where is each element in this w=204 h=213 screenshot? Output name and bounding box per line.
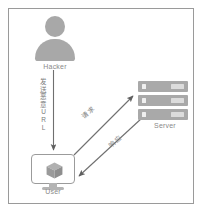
server-unit xyxy=(138,109,188,120)
vlabel-char-4: U xyxy=(38,108,49,116)
vlabel-char-0: 发 xyxy=(38,78,49,86)
server-led-icon xyxy=(142,98,146,102)
server-led-icon xyxy=(142,112,146,116)
avatar-body-icon xyxy=(35,39,75,61)
vlabel-char-1: 送 xyxy=(38,86,49,94)
server-led-icon xyxy=(142,84,146,88)
server-bar-icon xyxy=(171,98,184,102)
diagram-canvas: Hacker 发 送 恶 意 U R L 请求 响应 User xyxy=(0,0,204,213)
hacker-label: Hacker xyxy=(28,63,82,70)
server-label: Server xyxy=(136,122,194,129)
vlabel-char-3: 意 xyxy=(38,101,49,109)
server-unit xyxy=(138,81,188,92)
hacker-avatar-icon xyxy=(32,16,78,62)
vlabel-char-6: L xyxy=(38,124,49,132)
user-label: User xyxy=(26,188,80,195)
user-monitor-icon xyxy=(31,154,75,192)
edge-label-send-malicious-url: 发 送 恶 意 U R L xyxy=(38,78,49,131)
server-bar-icon xyxy=(171,84,184,88)
cube-icon xyxy=(45,161,64,180)
vlabel-char-2: 恶 xyxy=(38,93,49,101)
server-stack-icon xyxy=(138,81,188,120)
server-unit xyxy=(138,95,188,106)
avatar-head-icon xyxy=(45,16,65,37)
monitor-screen xyxy=(31,154,75,184)
vlabel-char-5: R xyxy=(38,116,49,124)
server-bar-icon xyxy=(171,112,184,116)
